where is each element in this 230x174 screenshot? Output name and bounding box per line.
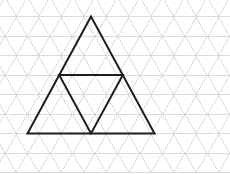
figure-canvas	[0, 0, 230, 174]
figure-svg	[0, 0, 230, 174]
